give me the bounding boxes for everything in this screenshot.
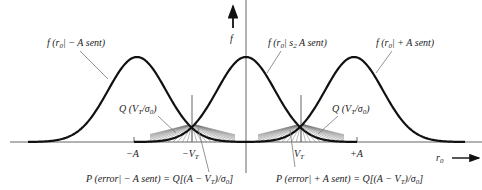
diagram-svg: f r0 −A −VT VT +A f (r0| − A sent) f (r0… <box>0 0 482 190</box>
diagram-canvas: f r0 −A −VT VT +A f (r0| − A sent) f (r0… <box>0 0 482 190</box>
leader-pos-a <box>376 51 392 73</box>
q-label-right: Q (VT/σ0) <box>332 103 370 116</box>
f-axis-label: f <box>230 33 234 44</box>
curve-label-pos-a: f (r0| + A sent) <box>376 37 435 50</box>
perr-label-pos-a: P (error| + A sent) = Q[(A − VT)/σ0] <box>275 173 423 186</box>
tick-label-pos-a: +A <box>350 148 364 159</box>
q-label-left: Q (VT/σ0) <box>119 103 157 116</box>
tick-label-neg-a: −A <box>126 148 140 159</box>
leader-mid <box>267 51 281 73</box>
perr-label-neg-a: P (error| − A sent) = Q[(A − VT)/σ0] <box>85 173 233 186</box>
leader-neg-a <box>80 51 108 79</box>
pdf-curve-pos-a <box>246 57 465 142</box>
tick-label-neg-vt: −VT <box>182 148 200 161</box>
tick-label-pos-vt: VT <box>294 148 305 161</box>
curve-label-mid: f (r0| s2 A sent) <box>268 37 327 50</box>
hatch-line <box>301 124 373 142</box>
r0-axis-label: r0 <box>436 152 444 165</box>
curve-label-neg-a: f (r0| − A sent) <box>47 37 106 50</box>
hatch-line <box>192 124 264 142</box>
